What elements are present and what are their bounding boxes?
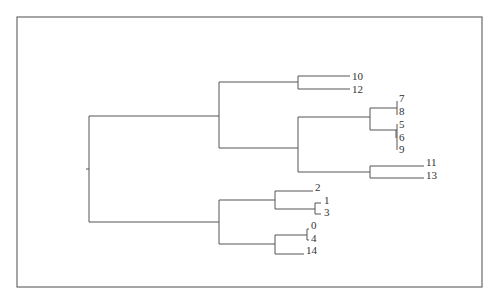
leaf-label-5: 5: [399, 118, 405, 130]
leaf-label-3: 3: [324, 206, 330, 218]
leaf-label-4: 4: [311, 232, 317, 244]
root-link: [86, 116, 219, 222]
leaf-label-8: 8: [399, 105, 405, 117]
upper-cluster-links: [219, 76, 424, 178]
leaf-label-0: 0: [311, 219, 317, 231]
leaf-label-13: 13: [426, 169, 438, 181]
leaf-label-6: 6: [399, 131, 405, 143]
leaf-label-1: 1: [324, 194, 330, 206]
leaf-label-11: 11: [426, 156, 437, 168]
dendrogram-canvas: 10 12 7 8 5 6 9 11 13 2 1 3 0 4 14: [0, 0, 498, 302]
dendrogram-figure: 10 12 7 8 5 6 9 11 13 2 1 3 0 4 14: [0, 0, 498, 302]
leaf-label-2: 2: [315, 181, 321, 193]
leaf-label-12: 12: [352, 83, 363, 95]
leaf-label-9: 9: [399, 143, 405, 155]
leaf-label-14: 14: [306, 244, 318, 256]
leaf-label-10: 10: [352, 70, 364, 82]
leaf-label-7: 7: [399, 92, 405, 104]
plot-frame: [17, 17, 482, 287]
